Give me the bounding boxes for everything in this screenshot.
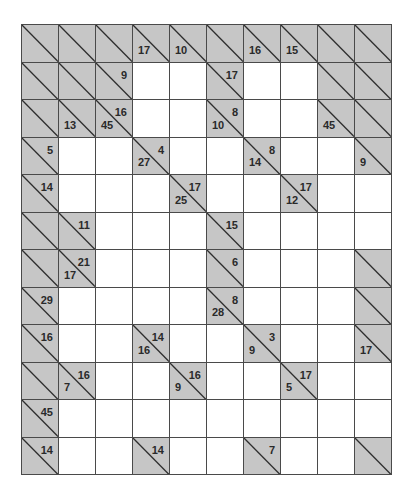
entry-cell[interactable]: [132, 399, 169, 437]
entry-cell[interactable]: [132, 249, 169, 287]
down-clue: 7: [64, 382, 70, 393]
entry-cell[interactable]: [206, 437, 243, 475]
entry-cell[interactable]: [206, 137, 243, 175]
entry-cell[interactable]: [243, 249, 280, 287]
diagonal-divider-icon: [207, 63, 243, 100]
entry-cell[interactable]: [317, 174, 354, 212]
entry-cell[interactable]: [206, 362, 243, 400]
entry-cell[interactable]: [169, 287, 206, 325]
entry-cell[interactable]: [280, 62, 317, 100]
diagonal-divider-icon: [96, 25, 132, 62]
entry-cell[interactable]: [132, 287, 169, 325]
entry-cell[interactable]: [95, 212, 132, 250]
entry-cell[interactable]: [243, 99, 280, 137]
entry-cell[interactable]: [280, 287, 317, 325]
entry-cell[interactable]: [58, 174, 95, 212]
diagonal-divider-icon: [59, 25, 95, 62]
across-clue: 16: [78, 370, 90, 381]
entry-cell[interactable]: [58, 399, 95, 437]
entry-cell[interactable]: [243, 362, 280, 400]
entry-cell[interactable]: [317, 212, 354, 250]
entry-cell[interactable]: [95, 249, 132, 287]
clue-cell: 1645: [95, 99, 132, 137]
entry-cell[interactable]: [206, 324, 243, 362]
entry-cell[interactable]: [317, 287, 354, 325]
entry-cell[interactable]: [243, 174, 280, 212]
entry-cell[interactable]: [58, 437, 95, 475]
clue-cell: 14: [21, 437, 58, 475]
block-cell: [58, 24, 95, 62]
entry-cell[interactable]: [95, 324, 132, 362]
across-clue: 14: [152, 445, 164, 456]
entry-cell[interactable]: [169, 99, 206, 137]
block-cell: [354, 287, 391, 325]
entry-cell[interactable]: [132, 362, 169, 400]
entry-cell[interactable]: [280, 99, 317, 137]
down-clue: 9: [249, 345, 255, 356]
entry-cell[interactable]: [169, 212, 206, 250]
entry-cell[interactable]: [317, 362, 354, 400]
entry-cell[interactable]: [280, 437, 317, 475]
entry-cell[interactable]: [317, 399, 354, 437]
entry-cell[interactable]: [58, 137, 95, 175]
clue-cell: 45: [317, 99, 354, 137]
entry-cell[interactable]: [317, 324, 354, 362]
across-clue: 4: [158, 145, 164, 156]
block-cell: [354, 437, 391, 475]
diagonal-divider-icon: [133, 438, 169, 475]
entry-cell[interactable]: [95, 137, 132, 175]
across-clue: 17: [300, 370, 312, 381]
entry-cell[interactable]: [169, 62, 206, 100]
entry-cell[interactable]: [243, 287, 280, 325]
block-cell: [21, 24, 58, 62]
entry-cell[interactable]: [95, 287, 132, 325]
entry-cell[interactable]: [317, 437, 354, 475]
entry-cell[interactable]: [132, 212, 169, 250]
entry-cell[interactable]: [354, 399, 391, 437]
entry-cell[interactable]: [95, 437, 132, 475]
entry-cell[interactable]: [58, 324, 95, 362]
entry-cell[interactable]: [132, 174, 169, 212]
entry-cell[interactable]: [243, 399, 280, 437]
down-clue: 15: [286, 45, 298, 56]
entry-cell[interactable]: [280, 324, 317, 362]
entry-cell[interactable]: [169, 249, 206, 287]
entry-cell[interactable]: [280, 399, 317, 437]
diagonal-divider-icon: [22, 288, 58, 325]
entry-cell[interactable]: [58, 287, 95, 325]
entry-cell[interactable]: [206, 399, 243, 437]
entry-cell[interactable]: [132, 99, 169, 137]
diagonal-divider-icon: [22, 363, 58, 400]
down-clue: 10: [175, 45, 187, 56]
entry-cell[interactable]: [354, 362, 391, 400]
clue-cell: 1712: [280, 174, 317, 212]
diagonal-divider-icon: [355, 250, 391, 287]
entry-cell[interactable]: [280, 249, 317, 287]
entry-cell[interactable]: [243, 212, 280, 250]
across-clue: 16: [41, 332, 53, 343]
clue-cell: 1416: [132, 324, 169, 362]
entry-cell[interactable]: [169, 324, 206, 362]
entry-cell[interactable]: [169, 399, 206, 437]
clue-cell: 6: [206, 249, 243, 287]
entry-cell[interactable]: [95, 362, 132, 400]
block-cell: [317, 62, 354, 100]
entry-cell[interactable]: [354, 212, 391, 250]
entry-cell[interactable]: [132, 62, 169, 100]
entry-cell[interactable]: [317, 249, 354, 287]
entry-cell[interactable]: [243, 62, 280, 100]
block-cell: [58, 62, 95, 100]
entry-cell[interactable]: [317, 137, 354, 175]
down-clue: 14: [249, 157, 261, 168]
entry-cell[interactable]: [95, 174, 132, 212]
entry-cell[interactable]: [280, 137, 317, 175]
entry-cell[interactable]: [280, 212, 317, 250]
diagonal-divider-icon: [22, 213, 58, 250]
entry-cell[interactable]: [169, 437, 206, 475]
entry-cell[interactable]: [354, 174, 391, 212]
across-clue: 17: [189, 182, 201, 193]
entry-cell[interactable]: [169, 137, 206, 175]
diagonal-divider-icon: [22, 25, 58, 62]
entry-cell[interactable]: [95, 399, 132, 437]
entry-cell[interactable]: [206, 174, 243, 212]
